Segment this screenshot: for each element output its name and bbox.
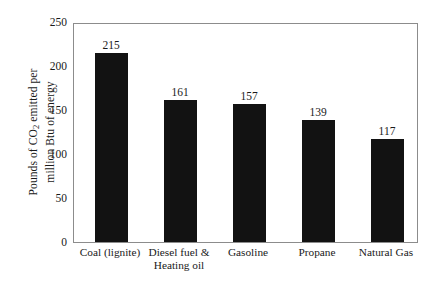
value-label-coal-lignite: 215 bbox=[81, 40, 141, 52]
bar-chart-figure: Pounds of CO2 emitted per million Btu of… bbox=[0, 0, 439, 283]
x-category-line-1: Natural Gas bbox=[359, 246, 413, 258]
y-tick-label-100: 100 bbox=[21, 149, 67, 161]
bar-diesel-heating-oil[interactable] bbox=[164, 100, 197, 242]
bar-propane[interactable] bbox=[302, 120, 335, 242]
y-axis-title-text: Pounds of CO bbox=[27, 129, 39, 195]
x-category-label-natural-gas: Natural Gas bbox=[336, 246, 436, 259]
bar-gasoline[interactable] bbox=[233, 104, 266, 242]
bar-coal-lignite[interactable] bbox=[95, 53, 128, 242]
y-axis-title-line-2: million Btu of energy bbox=[43, 81, 58, 182]
y-tick-label-150: 150 bbox=[21, 105, 67, 117]
bar-natural-gas[interactable] bbox=[371, 139, 404, 242]
y-axis-title-subscript: 2 bbox=[31, 125, 41, 129]
y-tick-label-250: 250 bbox=[21, 17, 67, 29]
value-label-diesel-heating-oil: 161 bbox=[150, 87, 210, 99]
x-category-line-1: Propane bbox=[298, 246, 335, 258]
y-axis-title-line-1: Pounds of CO2 emitted per bbox=[26, 69, 42, 196]
y-tick-label-200: 200 bbox=[21, 61, 67, 73]
y-tick-label-50: 50 bbox=[21, 193, 67, 205]
value-label-propane: 139 bbox=[288, 107, 348, 119]
value-label-gasoline: 157 bbox=[219, 91, 279, 103]
x-category-line-1: Gasoline bbox=[228, 246, 268, 258]
x-category-line-2: Heating oil bbox=[129, 259, 229, 272]
value-label-natural-gas: 117 bbox=[357, 126, 417, 138]
y-axis-title: Pounds of CO2 emitted per million Btu of… bbox=[22, 22, 62, 242]
